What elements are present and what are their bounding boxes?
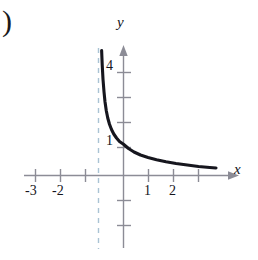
function-curve: [102, 51, 216, 169]
x-tick-label-2: 2: [169, 183, 176, 199]
x-tick-label-1: 1: [144, 183, 151, 199]
y-tick-label-4: 4: [106, 58, 113, 74]
x-tick-label-neg2: -2: [52, 183, 64, 199]
function-graph-figure: [0, 0, 258, 260]
x-axis-label: x: [234, 161, 241, 178]
y-axis-arrowhead: [119, 45, 127, 56]
x-tick-label-neg3: -3: [25, 183, 37, 199]
y-axis-label: y: [117, 14, 124, 31]
y-tick-label-1: 1: [106, 133, 113, 149]
